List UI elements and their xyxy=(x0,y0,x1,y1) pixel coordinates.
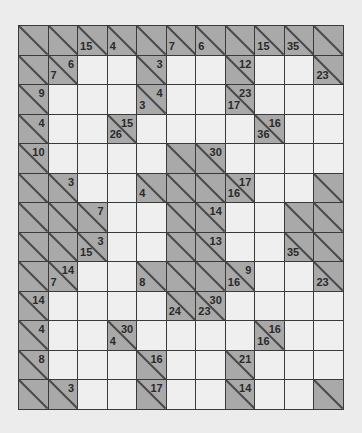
entry-cell[interactable] xyxy=(285,292,314,321)
entry-cell[interactable] xyxy=(108,85,137,114)
entry-cell[interactable] xyxy=(285,351,314,380)
entry-cell[interactable] xyxy=(137,144,166,173)
entry-cell[interactable] xyxy=(78,115,107,144)
entry-cell[interactable] xyxy=(285,56,314,85)
clue-block-cell xyxy=(167,233,196,262)
entry-cell[interactable] xyxy=(255,233,284,262)
diagonal-divider-icon xyxy=(19,380,48,409)
entry-cell[interactable] xyxy=(314,85,343,114)
clue-block-cell xyxy=(196,174,225,203)
entry-cell[interactable] xyxy=(196,115,225,144)
diagonal-divider-icon xyxy=(167,233,196,262)
entry-cell[interactable] xyxy=(108,174,137,203)
entry-cell[interactable] xyxy=(226,321,255,350)
entry-cell[interactable] xyxy=(196,351,225,380)
entry-cell[interactable] xyxy=(285,174,314,203)
entry-cell[interactable] xyxy=(196,321,225,350)
entry-cell[interactable] xyxy=(49,292,78,321)
entry-cell[interactable] xyxy=(255,203,284,232)
entry-cell[interactable] xyxy=(108,203,137,232)
down-sum-clue: 23 xyxy=(198,306,210,317)
entry-cell[interactable] xyxy=(49,115,78,144)
entry-cell[interactable] xyxy=(285,144,314,173)
entry-cell[interactable] xyxy=(314,292,343,321)
down-sum-clue: 15 xyxy=(257,41,269,52)
entry-cell[interactable] xyxy=(226,203,255,232)
across-sum-clue: 3 xyxy=(68,177,74,188)
entry-cell[interactable] xyxy=(108,351,137,380)
across-sum-clue: 14 xyxy=(62,265,74,276)
entry-cell[interactable] xyxy=(255,380,284,409)
entry-cell[interactable] xyxy=(285,262,314,291)
entry-cell[interactable] xyxy=(137,203,166,232)
down-sum-clue: 35 xyxy=(287,41,299,52)
entry-cell[interactable] xyxy=(78,56,107,85)
entry-cell[interactable] xyxy=(137,321,166,350)
entry-cell[interactable] xyxy=(137,115,166,144)
down-sum-clue: 23 xyxy=(316,277,328,288)
clue-block-cell: 3023 xyxy=(196,292,225,321)
entry-cell[interactable] xyxy=(108,144,137,173)
down-sum-clue: 15 xyxy=(80,247,92,258)
entry-cell[interactable] xyxy=(255,351,284,380)
entry-cell[interactable] xyxy=(108,56,137,85)
clue-block-cell xyxy=(285,203,314,232)
entry-cell[interactable] xyxy=(167,351,196,380)
entry-cell[interactable] xyxy=(78,262,107,291)
across-sum-clue: 4 xyxy=(38,118,44,129)
entry-cell[interactable] xyxy=(78,351,107,380)
entry-cell[interactable] xyxy=(78,85,107,114)
entry-cell[interactable] xyxy=(255,292,284,321)
entry-cell[interactable] xyxy=(314,115,343,144)
entry-cell[interactable] xyxy=(255,56,284,85)
entry-cell[interactable] xyxy=(226,292,255,321)
entry-cell[interactable] xyxy=(255,262,284,291)
entry-cell[interactable] xyxy=(137,292,166,321)
entry-cell[interactable] xyxy=(108,233,137,262)
entry-cell[interactable] xyxy=(167,56,196,85)
entry-cell[interactable] xyxy=(196,85,225,114)
entry-cell[interactable] xyxy=(314,321,343,350)
entry-cell[interactable] xyxy=(49,85,78,114)
entry-cell[interactable] xyxy=(167,321,196,350)
across-sum-clue: 14 xyxy=(239,383,251,394)
entry-cell[interactable] xyxy=(285,115,314,144)
entry-cell[interactable] xyxy=(108,262,137,291)
entry-cell[interactable] xyxy=(196,56,225,85)
entry-cell[interactable] xyxy=(285,85,314,114)
entry-cell[interactable] xyxy=(226,144,255,173)
diagonal-divider-icon xyxy=(49,203,78,232)
clue-block-cell: 15 xyxy=(78,26,107,55)
entry-cell[interactable] xyxy=(108,380,137,409)
entry-cell[interactable] xyxy=(137,233,166,262)
diagonal-divider-icon xyxy=(167,144,196,173)
diagonal-divider-icon xyxy=(226,26,255,55)
entry-cell[interactable] xyxy=(167,85,196,114)
diagonal-divider-icon xyxy=(314,174,343,203)
entry-cell[interactable] xyxy=(78,292,107,321)
across-sum-clue: 14 xyxy=(210,206,222,217)
down-sum-clue: 24 xyxy=(169,306,181,317)
entry-cell[interactable] xyxy=(255,174,284,203)
entry-cell[interactable] xyxy=(108,292,137,321)
entry-cell[interactable] xyxy=(314,144,343,173)
entry-cell[interactable] xyxy=(226,115,255,144)
entry-cell[interactable] xyxy=(49,144,78,173)
entry-cell[interactable] xyxy=(167,115,196,144)
entry-cell[interactable] xyxy=(255,144,284,173)
entry-cell[interactable] xyxy=(78,321,107,350)
clue-block-cell: 35 xyxy=(285,26,314,55)
entry-cell[interactable] xyxy=(78,144,107,173)
entry-cell[interactable] xyxy=(285,380,314,409)
entry-cell[interactable] xyxy=(78,380,107,409)
entry-cell[interactable] xyxy=(78,174,107,203)
entry-cell[interactable] xyxy=(314,351,343,380)
entry-cell[interactable] xyxy=(49,321,78,350)
entry-cell[interactable] xyxy=(255,85,284,114)
entry-cell[interactable] xyxy=(167,380,196,409)
entry-cell[interactable] xyxy=(196,380,225,409)
diagonal-divider-icon xyxy=(314,203,343,232)
entry-cell[interactable] xyxy=(285,321,314,350)
entry-cell[interactable] xyxy=(49,351,78,380)
entry-cell[interactable] xyxy=(226,233,255,262)
